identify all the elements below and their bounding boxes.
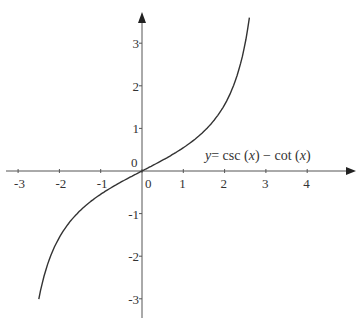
x-tick-label: 1: [179, 176, 186, 191]
chart: -3-2-101234 -3-2-1123 0 y= csc (x) − cot…: [0, 0, 364, 326]
x-tick-label: -1: [97, 176, 108, 191]
y-tick-label: -1: [128, 207, 139, 222]
equation-label: y= csc (x) − cot (x): [203, 148, 311, 164]
x-tick-label: 2: [221, 176, 228, 191]
y-tick-label: 1: [133, 121, 140, 136]
y-axis: [138, 12, 146, 318]
y-tick-label: 2: [133, 79, 140, 94]
y-tick-label: 3: [133, 36, 140, 51]
y-tick-label: -2: [128, 249, 139, 264]
x-axis: [6, 167, 356, 175]
x-tick-label: 0: [145, 176, 152, 191]
x-tick-label: -2: [55, 176, 66, 191]
y-axis-arrow-icon: [138, 12, 146, 23]
y-tick-label: -3: [128, 292, 139, 307]
x-ticks: -3-2-101234: [14, 169, 310, 191]
x-tick-label: -3: [14, 176, 25, 191]
x-tick-label: 4: [303, 176, 310, 191]
x-axis-arrow-icon: [346, 167, 356, 175]
origin-label: 0: [131, 155, 138, 170]
x-tick-label: 3: [262, 176, 269, 191]
